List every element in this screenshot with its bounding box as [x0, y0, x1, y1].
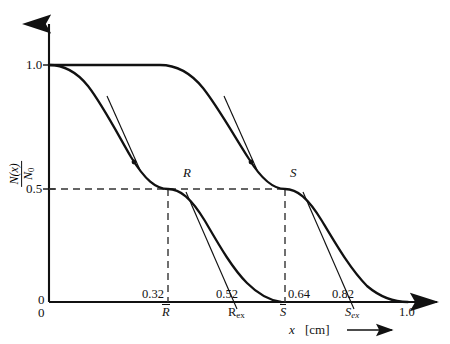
y-axis-numerator: N(x) — [8, 161, 22, 186]
x-value-label-0.32: 0.32 — [142, 288, 164, 301]
axis-marker-mean-range-S: S — [280, 306, 286, 319]
y-tick-label-0.5: 0.5 — [26, 182, 42, 195]
curve-R — [49, 65, 281, 302]
figure-transmission-curves: N(x) N0 1.0 0.5 0 0 0.32 0.52 0.64 0.82 … — [0, 0, 450, 344]
x-value-label-1.0: 1.0 — [399, 306, 415, 319]
x-axis-label: x — [289, 323, 295, 336]
x-value-label-0.52: 0.52 — [216, 288, 238, 301]
x-value-label-0.82: 0.82 — [332, 288, 354, 301]
inflection-dot-S — [249, 160, 254, 165]
tangent-S-upper — [224, 96, 257, 170]
overbar-R — [162, 304, 170, 305]
inflection-dot-R — [132, 160, 137, 165]
point-label-S: S — [290, 166, 297, 179]
point-label-R: R — [183, 166, 191, 179]
inflection-markers — [132, 160, 254, 165]
axis-marker-mean-range-R: R — [162, 306, 170, 319]
overbar-S — [280, 304, 286, 305]
x-value-label-0.64: 0.64 — [288, 288, 310, 301]
axis-marker-extrapolated-range-R: Rex — [228, 306, 245, 320]
y-axis-denominator: N0 — [22, 166, 36, 182]
tangent-R-upper — [107, 96, 140, 170]
x-axis-unit: [cm] — [305, 323, 330, 336]
curve-S — [49, 65, 408, 302]
y-tick-label-1.0: 1.0 — [26, 58, 42, 71]
origin-label-x: 0 — [38, 306, 45, 319]
axis-marker-extrapolated-range-S: Sex — [345, 306, 359, 320]
